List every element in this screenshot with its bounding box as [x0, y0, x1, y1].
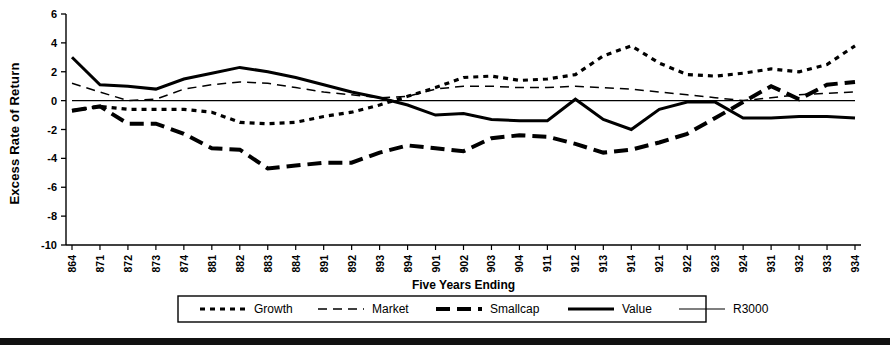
- series-line-growth: [72, 46, 855, 124]
- x-axis-title: Five Years Ending: [412, 278, 515, 292]
- bottom-rule: [0, 338, 890, 345]
- y-tick-label: 4: [51, 37, 58, 49]
- legend-label-smallcap: Smallcap: [490, 302, 540, 316]
- legend-label-r3000: R3000: [733, 302, 769, 316]
- x-tick-label: 893: [374, 255, 386, 273]
- x-tick-label: 902: [458, 255, 470, 273]
- y-tick-label: -8: [47, 210, 57, 222]
- x-tick-label: 891: [318, 255, 330, 273]
- x-tick-label: 871: [94, 255, 106, 273]
- x-tick-label: 882: [234, 255, 246, 273]
- x-tick-label: 911: [541, 255, 553, 272]
- x-tick-label: 914: [625, 255, 637, 273]
- y-tick-label: -10: [41, 239, 57, 251]
- x-tick-label: 903: [485, 255, 497, 273]
- x-tick-label: 884: [290, 255, 302, 273]
- x-tick-label: 932: [793, 255, 805, 273]
- legend-label-market: Market: [372, 302, 409, 316]
- x-tick-label: 933: [821, 255, 833, 273]
- legend-label-growth: Growth: [254, 302, 293, 316]
- x-tick-label: 924: [737, 255, 749, 273]
- x-tick-label: 921: [653, 255, 665, 273]
- series-line-smallcap: [72, 82, 855, 169]
- series-line-value: [72, 57, 855, 129]
- x-tick-label: 881: [206, 255, 218, 273]
- x-axis-ticks: 8648718728738748818828838848918928938949…: [66, 245, 861, 273]
- x-tick-label: 872: [122, 255, 134, 273]
- x-tick-label: 931: [765, 255, 777, 273]
- y-tick-label: -2: [47, 124, 57, 136]
- excess-return-chart-figure: Excess Rate of Return 6420-2-4-6-8-10 86…: [0, 0, 890, 348]
- y-tick-label: 6: [51, 8, 57, 20]
- x-tick-label: 904: [513, 255, 525, 273]
- x-tick-label: 913: [597, 255, 609, 273]
- x-tick-label: 894: [402, 255, 414, 273]
- x-tick-label: 873: [150, 255, 162, 273]
- legend-label-value: Value: [622, 302, 652, 316]
- y-tick-label: 0: [51, 95, 57, 107]
- x-tick-label: 892: [346, 255, 358, 273]
- legend-items: GrowthMarketSmallcapValueR3000: [200, 302, 769, 316]
- y-axis-ticks: 6420-2-4-6-8-10: [41, 8, 66, 251]
- x-tick-label: 912: [569, 255, 581, 273]
- x-tick-label: 901: [430, 255, 442, 273]
- x-tick-label: 922: [681, 255, 693, 273]
- chart-svg: 6420-2-4-6-8-10 864871872873874881882883…: [0, 0, 890, 348]
- x-tick-label: 934: [849, 255, 861, 273]
- y-tick-label: -4: [47, 152, 58, 164]
- x-tick-label: 923: [709, 255, 721, 273]
- x-tick-label: 874: [178, 255, 190, 273]
- y-tick-label: 2: [51, 66, 57, 78]
- series-lines: [72, 46, 855, 169]
- y-tick-label: -6: [47, 181, 57, 193]
- x-tick-label: 883: [262, 255, 274, 273]
- x-tick-label: 864: [66, 255, 78, 273]
- series-line-market: [72, 82, 855, 101]
